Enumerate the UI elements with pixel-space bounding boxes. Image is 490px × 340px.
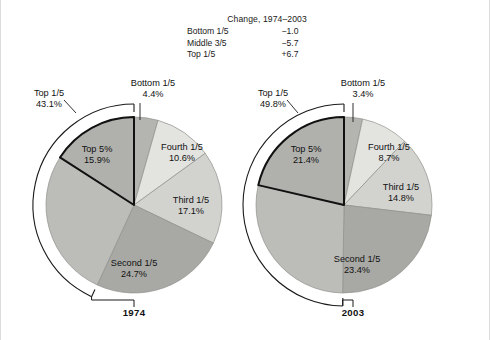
chart-year-label: 1974 <box>123 307 146 318</box>
label-bottom-quintile-name: Bottom 1/5 <box>131 78 175 88</box>
label-bottom-quintile-name: Bottom 1/5 <box>341 78 385 88</box>
label-bottom-quintile-value: 4.4% <box>143 89 164 99</box>
label-top-quintile-name: Top 1/5 <box>34 88 64 98</box>
label-fourth-1-5-name: Fourth 1/5 <box>368 142 410 152</box>
year-connector-line <box>92 297 134 307</box>
label-top-5--name: Top 5% <box>291 144 322 154</box>
change-row-value: +6.7 <box>259 49 321 60</box>
label-third-1-5-value: 17.1% <box>178 206 204 216</box>
label-fourth-1-5-name: Fourth 1/5 <box>161 142 203 152</box>
bracket-tick-0 <box>92 289 95 296</box>
label-second-1-5-name: Second 1/5 <box>334 254 381 264</box>
chart-year-label: 2003 <box>342 307 365 318</box>
label-top-5--value: 15.9% <box>84 155 110 165</box>
change-row-label: Middle 3/5 <box>187 38 259 49</box>
label-fourth-1-5-value: 8.7% <box>379 153 400 163</box>
pie-chart-2003: Top 1/549.8%Bottom 1/53.4%Fourth 1/58.7%… <box>243 78 432 318</box>
label-top-5--value: 21.4% <box>293 155 319 165</box>
change-summary-row: Middle 3/5 −5.7 <box>187 38 321 49</box>
year-connector-line <box>343 300 353 307</box>
label-top-5--name: Top 5% <box>82 144 113 154</box>
top-quintile-leader-line <box>64 100 76 113</box>
label-top-quintile-value: 43.1% <box>36 99 62 109</box>
change-row-value: −1.0 <box>259 26 321 37</box>
change-summary-table: Change, 1974–2003 Bottom 1/5 −1.0 Middle… <box>187 14 321 60</box>
change-row-label: Top 1/5 <box>187 49 259 60</box>
change-row-value: −5.7 <box>259 38 321 49</box>
label-fourth-1-5-value: 10.6% <box>169 153 195 163</box>
label-third-1-5-value: 14.8% <box>388 193 414 203</box>
label-top-quintile-value: 49.8% <box>260 99 286 109</box>
pie-chart-1974: Top 1/543.1%Bottom 1/54.4%Fourth 1/510.6… <box>33 78 222 318</box>
label-second-1-5-value: 24.7% <box>121 269 147 279</box>
change-row-label: Bottom 1/5 <box>187 26 259 37</box>
label-bottom-quintile-value: 3.4% <box>353 89 374 99</box>
change-summary-title: Change, 1974–2003 <box>213 14 321 25</box>
label-third-1-5-name: Third 1/5 <box>173 195 209 205</box>
figure-panel: Change, 1974–2003 Bottom 1/5 −1.0 Middle… <box>0 0 490 340</box>
label-top-quintile-name: Top 1/5 <box>258 88 288 98</box>
change-summary-row: Bottom 1/5 −1.0 <box>187 26 321 37</box>
label-second-1-5-value: 23.4% <box>344 265 370 275</box>
top-quintile-leader-line <box>287 100 298 113</box>
label-third-1-5-name: Third 1/5 <box>383 182 419 192</box>
pie-slice-second-1-5[interactable] <box>343 205 432 293</box>
change-summary-row: Top 1/5 +6.7 <box>187 49 321 60</box>
label-second-1-5-name: Second 1/5 <box>111 258 158 268</box>
